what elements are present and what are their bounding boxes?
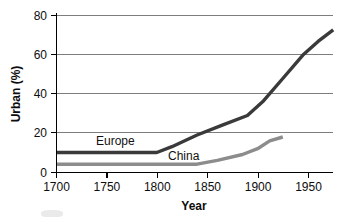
y-tick-label-40: 40 [34,87,48,101]
y-axis-title: Urban (%) [9,66,23,123]
urbanization-line-chart: 80 60 40 20 0 1700 1750 1800 1850 1900 1… [0,0,345,224]
gridlines [56,16,333,133]
y-tick-label-0: 0 [40,166,47,180]
x-tick-marks [57,173,309,179]
x-tick-label-1700: 1700 [43,180,70,194]
y-tick-marks [51,16,56,173]
y-tick-label-20: 20 [34,126,48,140]
series-label-china: China [168,149,200,163]
y-tick-label-80: 80 [34,9,48,23]
series-label-europe: Europe [96,134,135,148]
y-tick-labels: 80 60 40 20 0 [34,9,48,180]
scan-artifact [41,210,63,217]
x-tick-label-1750: 1750 [94,180,121,194]
x-tick-label-1850: 1850 [194,180,221,194]
x-tick-label-1800: 1800 [144,180,171,194]
x-axis-title: Year [181,199,207,213]
chart-figure: 80 60 40 20 0 1700 1750 1800 1850 1900 1… [0,0,345,224]
x-tick-label-1950: 1950 [295,180,322,194]
x-tick-label-1900: 1900 [245,180,272,194]
y-tick-label-60: 60 [34,48,48,62]
x-tick-labels: 1700 1750 1800 1850 1900 1950 [43,180,322,194]
